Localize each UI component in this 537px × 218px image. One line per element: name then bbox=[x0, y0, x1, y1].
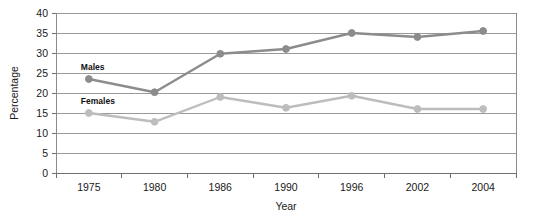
x-tick-label-2002: 2002 bbox=[406, 181, 430, 193]
data-point-females-1996 bbox=[348, 92, 355, 99]
x-tick-label-1986: 1986 bbox=[209, 181, 233, 193]
x-tick-label-2004: 2004 bbox=[471, 181, 495, 193]
data-point-females-1990 bbox=[283, 104, 290, 111]
data-point-males-1990 bbox=[283, 46, 290, 53]
data-point-females-1980 bbox=[151, 118, 158, 125]
data-point-males-2002 bbox=[414, 34, 421, 41]
y-tick-label-0: 0 bbox=[42, 167, 48, 179]
y-axis-title: Percentage bbox=[8, 66, 20, 120]
data-point-females-1986 bbox=[217, 94, 224, 101]
data-point-males-1996 bbox=[348, 30, 355, 37]
y-tick-label-15: 15 bbox=[36, 107, 48, 119]
data-point-females-1975 bbox=[85, 110, 92, 117]
x-tick-label-1990: 1990 bbox=[274, 181, 298, 193]
series-label-males: Males bbox=[81, 62, 105, 72]
chart-canvas: 0510152025303540197519801986199019962002… bbox=[0, 0, 537, 218]
y-tick-label-30: 30 bbox=[36, 47, 48, 59]
data-point-males-1980 bbox=[151, 89, 158, 96]
x-tick-label-1980: 1980 bbox=[143, 181, 167, 193]
x-tick-label-1975: 1975 bbox=[77, 181, 101, 193]
data-point-females-2004 bbox=[480, 106, 487, 113]
x-tick-label-1996: 1996 bbox=[340, 181, 364, 193]
y-tick-label-10: 10 bbox=[36, 127, 48, 139]
y-tick-label-5: 5 bbox=[42, 147, 48, 159]
data-point-males-2004 bbox=[480, 28, 487, 35]
y-tick-label-40: 40 bbox=[36, 7, 48, 19]
series-label-females: Females bbox=[81, 96, 115, 106]
y-tick-label-20: 20 bbox=[36, 87, 48, 99]
data-point-males-1975 bbox=[85, 76, 92, 83]
y-tick-label-25: 25 bbox=[36, 67, 48, 79]
line-chart: 0510152025303540197519801986199019962002… bbox=[0, 0, 537, 218]
data-point-females-2002 bbox=[414, 106, 421, 113]
x-axis-title: Year bbox=[275, 200, 297, 212]
data-point-males-1986 bbox=[217, 50, 224, 57]
y-tick-label-35: 35 bbox=[36, 27, 48, 39]
